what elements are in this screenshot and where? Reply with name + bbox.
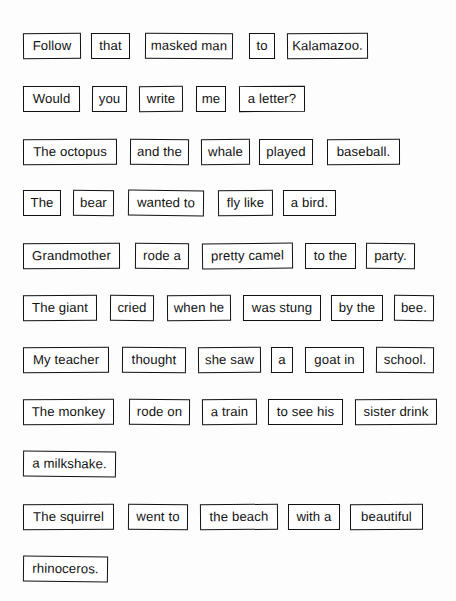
- word-card[interactable]: a train: [202, 399, 257, 425]
- word-card[interactable]: whale: [201, 139, 250, 165]
- word-card[interactable]: beautiful: [350, 504, 423, 530]
- word-card[interactable]: baseball.: [327, 139, 400, 165]
- word-card[interactable]: bear: [73, 190, 114, 216]
- sentence-row-9: a milkshake.: [0, 451, 456, 481]
- sentence-row-1: Followthatmasked mantoKalamazoo.: [0, 33, 456, 63]
- word-card[interactable]: masked man: [145, 33, 233, 60]
- word-card[interactable]: a: [271, 347, 293, 373]
- word-card[interactable]: The squirrel: [23, 504, 114, 530]
- word-card[interactable]: she saw: [198, 347, 261, 373]
- sentence-row-7: My teacherthoughtshe sawagoat inschool.: [0, 347, 456, 377]
- word-card[interactable]: was stung: [243, 295, 321, 321]
- word-card[interactable]: school.: [376, 347, 434, 373]
- sentence-row-11: rhinoceros.: [0, 556, 456, 586]
- word-card[interactable]: you: [92, 86, 127, 112]
- word-card[interactable]: pretty camel: [202, 242, 293, 269]
- word-card[interactable]: The octopus: [23, 139, 117, 165]
- word-card[interactable]: that: [91, 33, 130, 59]
- word-card[interactable]: bee.: [394, 295, 434, 321]
- word-card[interactable]: rode a: [135, 243, 189, 269]
- word-card[interactable]: party.: [366, 243, 415, 269]
- word-card[interactable]: when he: [167, 295, 231, 322]
- word-card[interactable]: me: [196, 86, 226, 112]
- sentence-row-4: Thebearwanted tofly likea bird.: [0, 190, 456, 220]
- worksheet-page: Followthatmasked mantoKalamazoo.Wouldyou…: [0, 0, 456, 601]
- word-card[interactable]: went to: [128, 504, 188, 530]
- word-card[interactable]: thought: [122, 347, 186, 373]
- word-card[interactable]: to: [249, 33, 275, 59]
- sentence-row-5: Grandmotherrode apretty camelto theparty…: [0, 243, 456, 273]
- word-card[interactable]: the beach: [200, 504, 278, 531]
- word-card[interactable]: fly like: [218, 190, 273, 216]
- word-card[interactable]: sister drink: [355, 399, 437, 425]
- word-card[interactable]: The giant: [23, 295, 97, 321]
- sentence-row-10: The squirrelwent tothe beachwith abeauti…: [0, 504, 456, 534]
- word-card[interactable]: played: [259, 139, 313, 165]
- sentence-row-3: The octopusand thewhaleplayedbaseball.: [0, 139, 456, 169]
- word-card[interactable]: goat in: [305, 347, 364, 373]
- sentence-row-8: The monkeyrode ona trainto see hissister…: [0, 399, 456, 429]
- word-card[interactable]: to see his: [268, 399, 343, 425]
- word-card[interactable]: rode on: [129, 399, 190, 425]
- word-card[interactable]: and the: [130, 139, 189, 165]
- word-card[interactable]: a bird.: [283, 190, 336, 216]
- word-card[interactable]: Kalamazoo.: [287, 33, 368, 60]
- word-card[interactable]: The monkey: [23, 399, 114, 425]
- word-card[interactable]: with a: [288, 504, 340, 530]
- word-card[interactable]: Grandmother: [23, 243, 120, 269]
- word-card[interactable]: to the: [305, 243, 356, 269]
- word-card[interactable]: a letter?: [239, 86, 305, 112]
- word-card[interactable]: wanted to: [128, 190, 204, 217]
- word-card[interactable]: rhinoceros.: [23, 556, 108, 583]
- sentence-row-2: Wouldyouwritemea letter?: [0, 86, 456, 116]
- word-card[interactable]: Follow: [23, 33, 81, 59]
- sentence-row-6: The giantcriedwhen hewas stungby thebee.: [0, 295, 456, 325]
- word-card[interactable]: a milkshake.: [23, 450, 116, 477]
- word-card[interactable]: by the: [331, 295, 383, 321]
- word-card[interactable]: write: [139, 86, 183, 112]
- word-card[interactable]: My teacher: [23, 347, 109, 373]
- word-card[interactable]: Would: [23, 86, 80, 112]
- word-card[interactable]: cried: [110, 295, 154, 321]
- word-card[interactable]: The: [23, 190, 61, 216]
